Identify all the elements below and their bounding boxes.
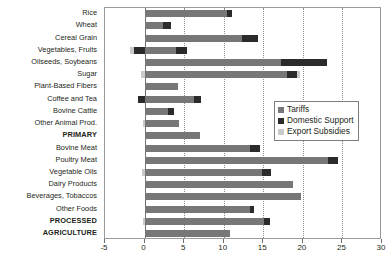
bar-segment xyxy=(145,181,293,188)
bar-segment xyxy=(134,47,144,54)
bar-segment xyxy=(145,96,195,103)
x-tick-label: 20 xyxy=(297,243,306,252)
bar-segment xyxy=(297,71,300,78)
bar-row xyxy=(105,216,380,228)
y-axis-label: Dairy Products xyxy=(49,178,97,190)
bar-segment xyxy=(281,59,327,66)
bar-segment xyxy=(145,157,329,164)
legend-swatch-domestic-support xyxy=(278,118,284,124)
legend-item-export-subsidies: Export Subsidies xyxy=(278,126,354,137)
bar-segment xyxy=(176,47,187,54)
x-tick-label: 25 xyxy=(337,243,346,252)
x-tick-label: 15 xyxy=(258,243,267,252)
y-axis-label: Poultry Meat xyxy=(56,154,98,166)
y-axis-labels: RiceWheatCereal GrainVegetables, FruitsO… xyxy=(0,7,101,239)
x-tick-label: 0 xyxy=(141,243,145,252)
bar-segment xyxy=(163,22,172,29)
bar-segment xyxy=(145,83,178,90)
y-axis-label: AGRICULTURE xyxy=(43,227,97,239)
legend-item-domestic-support: Domestic Support xyxy=(278,115,354,126)
y-axis-label: PROCESSED xyxy=(50,215,97,227)
bar-segment xyxy=(145,71,287,78)
bar-segment xyxy=(145,120,179,127)
y-axis-label: Vegetable Oils xyxy=(49,166,97,178)
bar-segment xyxy=(194,96,200,103)
bar-segment xyxy=(145,47,177,54)
bar-row xyxy=(105,20,380,32)
bar-segment xyxy=(145,10,227,17)
bar-row xyxy=(105,69,380,81)
x-tick-label: -5 xyxy=(100,243,107,252)
bar-segment xyxy=(145,218,265,225)
x-tick-label: 30 xyxy=(377,243,386,252)
y-axis-label: Plant-Based Fibers xyxy=(34,80,97,92)
bar-segment xyxy=(145,22,163,29)
legend-swatch-export-subsidies xyxy=(278,129,284,135)
y-axis-label: Sugar xyxy=(77,68,97,80)
bar-segment xyxy=(145,193,302,200)
bar-row xyxy=(105,33,380,45)
y-axis-label: Rice xyxy=(82,7,97,19)
bar-segment xyxy=(145,145,250,152)
bar-row xyxy=(105,228,380,240)
bar-segment xyxy=(250,206,254,213)
bar-row xyxy=(105,143,380,155)
bar-row xyxy=(105,57,380,69)
bar-segment xyxy=(242,35,258,42)
chart-container: RiceWheatCereal GrainVegetables, FruitsO… xyxy=(0,0,389,268)
bar-segment xyxy=(168,108,174,115)
y-axis-label: Vegetables, Fruits xyxy=(38,44,97,56)
legend-item-tariffs: Tariffs xyxy=(278,104,354,115)
legend-label-export-subsidies: Export Subsidies xyxy=(287,126,350,137)
bar-row xyxy=(105,8,380,20)
legend-swatch-tariffs xyxy=(278,107,284,113)
y-axis-label: Wheat xyxy=(76,19,97,31)
legend-label-tariffs: Tariffs xyxy=(287,104,309,115)
bar-segment xyxy=(227,10,232,17)
bar-row xyxy=(105,179,380,191)
bar-segment xyxy=(145,206,250,213)
bar-row xyxy=(105,167,380,179)
bar-row xyxy=(105,81,380,93)
y-axis-label: Bovine Meat xyxy=(56,142,97,154)
bar-segment xyxy=(264,218,270,225)
y-axis-label: PRIMARY xyxy=(62,129,97,141)
bar-segment xyxy=(250,145,260,152)
bar-segment xyxy=(145,108,169,115)
y-axis-label: Coffee and Tea xyxy=(47,93,97,105)
bar-row xyxy=(105,155,380,167)
y-axis-label: Beverages, Tobaccos xyxy=(26,190,97,202)
x-axis: -5051015202530 xyxy=(104,239,381,259)
legend-label-domestic-support: Domestic Support xyxy=(287,115,354,126)
bar-row xyxy=(105,191,380,203)
bar-segment xyxy=(145,35,242,42)
bar-segment xyxy=(145,132,200,139)
y-axis-label: Oilseeds, Soybeans xyxy=(31,56,97,68)
bar-segment xyxy=(145,230,230,237)
legend: Tariffs Domestic Support Export Subsidie… xyxy=(274,101,359,141)
y-axis-label: Cereal Grain xyxy=(55,32,97,44)
x-tick-label: 10 xyxy=(218,243,227,252)
bar-row xyxy=(105,204,380,216)
x-tick-label: 5 xyxy=(181,243,185,252)
y-axis-label: Other Foods xyxy=(56,203,97,215)
bar-row xyxy=(105,45,380,57)
bar-segment xyxy=(145,59,281,66)
bar-segment xyxy=(287,71,296,78)
bar-segment xyxy=(145,169,262,176)
bar-segment xyxy=(262,169,271,176)
bar-segment xyxy=(328,157,338,164)
y-axis-label: Bovine Cattle xyxy=(53,105,97,117)
y-axis-label: Other Animal Prod. xyxy=(35,117,97,129)
